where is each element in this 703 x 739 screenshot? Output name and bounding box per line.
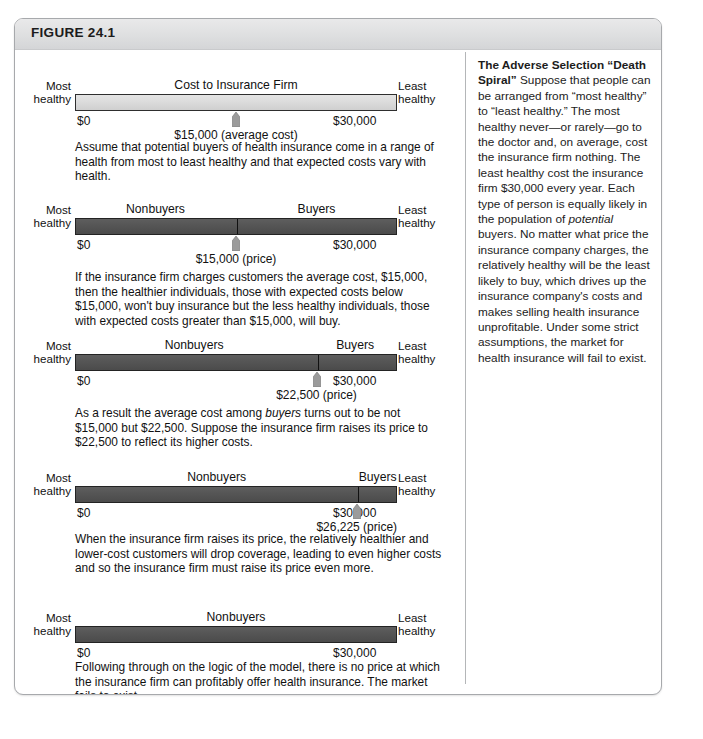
tick-label-min: $0 (77, 646, 90, 660)
panel-description: If the insurance firm charges customers … (75, 270, 443, 328)
segment-label-nonbuyers: Nonbuyers (207, 610, 266, 624)
price-marker-icon (232, 236, 241, 251)
spectrum-bar (75, 486, 397, 503)
most-healthy-label-line2: healthy (34, 484, 71, 497)
health-spectrum-bar-row: MosthealthyLeasthealthyNonbuyersBuyers$0… (15, 338, 464, 380)
bar-title: Cost to Insurance Firm (75, 78, 397, 92)
figure-body: MosthealthyLeasthealthyCost to Insurance… (15, 50, 661, 694)
segment-label-nonbuyers: Nonbuyers (187, 470, 246, 484)
most-healthy-label: Mosthealthy (34, 203, 71, 229)
most-healthy-label-line1: Most (34, 203, 71, 216)
most-healthy-label: Mosthealthy (34, 79, 71, 105)
diagram-panel: MosthealthyLeasthealthyNonbuyersBuyers$0… (15, 470, 464, 512)
diagram-column: MosthealthyLeasthealthyCost to Insurance… (15, 50, 464, 694)
tick-label-min: $0 (77, 374, 90, 388)
least-healthy-label: Leasthealthy (398, 611, 435, 637)
most-healthy-label-line2: healthy (34, 216, 71, 229)
diagram-panel: MosthealthyLeasthealthyNonbuyers$0$30,00… (15, 610, 464, 652)
most-healthy-label-line2: healthy (34, 352, 71, 365)
most-healthy-label: Mosthealthy (34, 611, 71, 637)
health-spectrum-bar-row: MosthealthyLeasthealthyNonbuyers$0$30,00… (15, 610, 464, 652)
most-healthy-label-line2: healthy (34, 624, 71, 637)
least-healthy-label-line1: Least (398, 79, 435, 92)
segment-label-buyers: Buyers (298, 202, 336, 216)
health-spectrum-bar-row: MosthealthyLeasthealthyNonbuyersBuyers$0… (15, 202, 464, 244)
segment-label-buyers: Buyers (359, 470, 397, 484)
diagram-panel: MosthealthyLeasthealthyNonbuyersBuyers$0… (15, 338, 464, 380)
figure-container: FIGURE 24.1 MosthealthyLeasthealthyCost … (14, 18, 662, 695)
segment-label-nonbuyers: Nonbuyers (165, 338, 224, 352)
most-healthy-label: Mosthealthy (34, 471, 71, 497)
tick-label-min: $0 (77, 238, 90, 252)
price-marker-icon (352, 504, 361, 519)
sidebar-body-part2: buyers. No matter what price the insuran… (478, 227, 650, 364)
least-healthy-label-line1: Least (398, 339, 435, 352)
segment-label-buyers: Buyers (336, 338, 374, 352)
segment-divider (237, 219, 238, 234)
most-healthy-label-line1: Most (34, 339, 71, 352)
tick-label-max: $30,000 (333, 114, 376, 128)
least-healthy-label-line2: healthy (398, 92, 435, 105)
price-marker-label: $22,500 (price) (276, 388, 357, 402)
figure-header-band: FIGURE 24.1 (15, 19, 661, 50)
price-marker-label: $15,000 (price) (196, 252, 277, 266)
panel-description: Assume that potential buyers of health i… (75, 140, 443, 184)
panel-description-italic: buyers (265, 406, 301, 420)
most-healthy-label: Mosthealthy (34, 339, 71, 365)
health-spectrum-bar-row: MosthealthyLeasthealthyNonbuyersBuyers$0… (15, 470, 464, 512)
most-healthy-label-line1: Most (34, 79, 71, 92)
sidebar-body-part1: Suppose that people can be arranged from… (478, 73, 651, 226)
health-spectrum-bar-row: MosthealthyLeasthealthyCost to Insurance… (15, 78, 464, 120)
least-healthy-label-line1: Least (398, 203, 435, 216)
tick-label-max: $30,000 (333, 238, 376, 252)
least-healthy-label-line1: Least (398, 611, 435, 624)
panel-description-part1: As a result the average cost among (75, 406, 265, 420)
panel-description: Following through on the logic of the mo… (75, 660, 443, 695)
least-healthy-label-line2: healthy (398, 484, 435, 497)
diagram-panel: MosthealthyLeasthealthyCost to Insurance… (15, 78, 464, 120)
spectrum-bar (75, 94, 397, 111)
most-healthy-label-line2: healthy (34, 92, 71, 105)
least-healthy-label-line2: healthy (398, 352, 435, 365)
sidebar-body-italic: potential (569, 212, 614, 226)
least-healthy-label-line2: healthy (398, 216, 435, 229)
sidebar-caption: The Adverse Selection “Death Spiral” Sup… (478, 58, 651, 366)
most-healthy-label-line1: Most (34, 611, 71, 624)
spectrum-bar (75, 354, 397, 371)
tick-label-max: $30,000 (333, 374, 376, 388)
price-marker-icon (232, 112, 241, 127)
panel-description: As a result the average cost among buyer… (75, 406, 443, 450)
tick-label-min: $0 (77, 506, 90, 520)
price-marker-icon (312, 372, 321, 387)
segment-label-nonbuyers: Nonbuyers (126, 202, 185, 216)
segment-divider (358, 487, 359, 502)
spectrum-bar (75, 626, 397, 643)
figure-label: FIGURE 24.1 (31, 25, 115, 40)
least-healthy-label-line2: healthy (398, 624, 435, 637)
tick-label-min: $0 (77, 114, 90, 128)
least-healthy-label: Leasthealthy (398, 339, 435, 365)
tick-label-max: $30,000 (333, 646, 376, 660)
least-healthy-label: Leasthealthy (398, 79, 435, 105)
column-divider-rule (465, 52, 466, 684)
segment-divider (318, 355, 319, 370)
most-healthy-label-line1: Most (34, 471, 71, 484)
spectrum-bar (75, 218, 397, 235)
panel-description: When the insurance firm raises its price… (75, 532, 443, 576)
least-healthy-label: Leasthealthy (398, 471, 435, 497)
least-healthy-label: Leasthealthy (398, 203, 435, 229)
least-healthy-label-line1: Least (398, 471, 435, 484)
diagram-panel: MosthealthyLeasthealthyNonbuyersBuyers$0… (15, 202, 464, 244)
